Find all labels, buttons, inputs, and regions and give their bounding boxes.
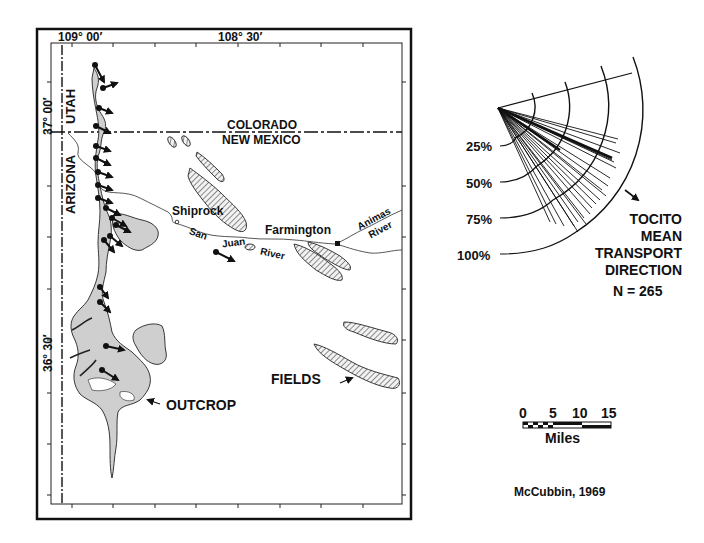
outcrop-leader: [148, 400, 160, 404]
bottom-ticks: [72, 504, 363, 508]
state-label-utah: UTAH: [64, 89, 77, 124]
state-label-colorado: COLORADO: [227, 119, 297, 131]
fields-leader: [340, 378, 352, 383]
scale-unit: Miles: [545, 431, 580, 445]
longitude-label-108-30: 108° 30′: [218, 31, 262, 43]
scale-tick-0: 0: [519, 406, 527, 420]
rose-title-line-4: DIRECTION: [595, 262, 682, 279]
farmington-marker: [335, 241, 340, 246]
rose-ring-label-100: 100%: [457, 249, 490, 262]
rose-ring-label-25: 25%: [466, 140, 492, 153]
place-label-shiprock: Shiprock: [172, 205, 223, 217]
state-label-arizona: ARIZONA: [64, 155, 77, 214]
scale-bar: [523, 422, 611, 428]
citation: McCubbin, 1969: [514, 486, 605, 498]
state-label-new-mexico: NEW MEXICO: [222, 134, 301, 146]
scale-tick-10: 10: [572, 406, 588, 420]
latitude-label-37: 37° 00′: [42, 97, 54, 135]
longitude-label-109: 109° 00′: [58, 31, 102, 43]
mean-direction-arrow: [625, 190, 638, 200]
scale-tick-5: 5: [549, 406, 557, 420]
place-label-farmington: Farmington: [265, 224, 331, 236]
scale-tick-15: 15: [601, 406, 617, 420]
right-ticks: [402, 82, 406, 495]
left-ticks: [47, 82, 51, 495]
rose-title: TOCITO MEAN TRANSPORT DIRECTION: [595, 211, 682, 279]
outer-frame: [37, 29, 411, 519]
outcrop-belt: [71, 68, 150, 478]
rose-title-line-3: TRANSPORT: [595, 245, 682, 262]
shiprock-marker: [175, 220, 179, 224]
rose-title-line-1: TOCITO: [595, 211, 682, 228]
rose-sample-count: N = 265: [613, 284, 662, 298]
latitude-label-36-30: 36° 30′: [42, 334, 54, 372]
rose-title-line-2: MEAN: [595, 228, 682, 245]
outcrop-label: OUTCROP: [166, 398, 236, 412]
fields-label: FIELDS: [271, 372, 321, 386]
rose-ring-label-75: 75%: [466, 213, 492, 226]
rose-ring-label-50: 50%: [466, 177, 492, 190]
